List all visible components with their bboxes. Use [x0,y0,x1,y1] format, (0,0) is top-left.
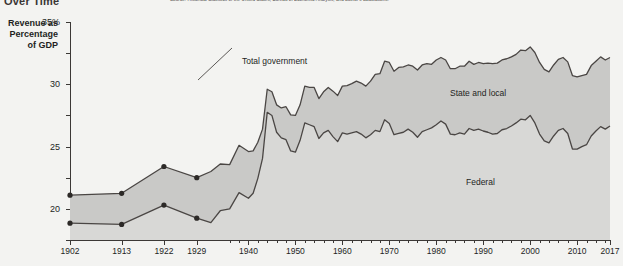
total-government-leader-line [198,48,232,80]
page-title: Over Time [4,0,59,7]
area-series [70,22,610,240]
x-tick-major [577,240,578,245]
x-tick-minor [464,240,465,243]
x-tick-minor [371,240,372,243]
y-tick-label: 35% [42,17,60,27]
x-tick-minor [568,240,569,243]
annotation-total-government: Total government [242,56,307,66]
x-tick-label: 1940 [239,246,258,256]
x-tick-minor [333,240,334,243]
x-tick-major [389,240,390,245]
x-tick-label: 2000 [521,246,540,256]
x-tick-minor [417,240,418,243]
data-point-marker [67,221,72,226]
x-tick-major [70,240,71,245]
data-point-marker [161,203,166,208]
x-tick-minor [596,240,597,243]
y-tick-label: 25 [50,142,60,152]
x-tick-minor [605,240,606,243]
x-tick-major [436,240,437,245]
data-point-marker [119,191,124,196]
x-tick-major [342,240,343,245]
x-tick-major [197,240,198,245]
x-tick-major [248,240,249,245]
data-point-marker [119,222,124,227]
x-tick-major [530,240,531,245]
x-tick-minor [502,240,503,243]
x-tick-minor [277,240,278,243]
y-axis-caption-line-3: of GDP [0,40,58,51]
chart-page: Over Time Source: Historical Statistics … [0,0,623,266]
annotation-state-and-local: State and local [450,88,506,98]
x-axis-line [70,240,610,241]
x-tick-minor [361,240,362,243]
x-tick-label: 1950 [286,246,305,256]
x-tick-minor [455,240,456,243]
x-tick-label: 1913 [112,246,131,256]
x-tick-minor [399,240,400,243]
x-tick-major [164,240,165,245]
x-tick-minor [446,240,447,243]
plot-area: 05101520253035% 190219131922192919401950… [70,22,610,240]
x-tick-label: 1980 [427,246,446,256]
x-tick-minor [549,240,550,243]
data-point-marker [194,216,199,221]
x-tick-minor [352,240,353,243]
x-tick-minor [493,240,494,243]
y-axis-caption-line-2: Percentage [0,29,58,40]
y-tick-label: 20 [50,204,60,214]
x-tick-major [122,240,123,245]
x-tick-minor [258,240,259,243]
x-tick-label: 1922 [154,246,173,256]
x-tick-minor [239,240,240,243]
data-point-marker [161,164,166,169]
x-tick-minor [511,240,512,243]
x-tick-major [483,240,484,245]
x-tick-major [610,240,611,245]
x-tick-minor [314,240,315,243]
x-tick-minor [540,240,541,243]
x-tick-label: 1960 [333,246,352,256]
x-tick-label: 1902 [61,246,80,256]
x-tick-minor [324,240,325,243]
x-tick-major [295,240,296,245]
y-tick-label: 30 [50,79,60,89]
x-tick-minor [286,240,287,243]
x-tick-label: 1990 [474,246,493,256]
data-point-marker [67,193,72,198]
x-tick-minor [267,240,268,243]
x-tick-label: 2017 [601,246,620,256]
x-tick-label: 2010 [568,246,587,256]
annotation-federal: Federal [466,177,495,187]
x-tick-label: 1929 [187,246,206,256]
x-tick-minor [521,240,522,243]
x-tick-minor [587,240,588,243]
x-tick-minor [427,240,428,243]
x-tick-label: 1970 [380,246,399,256]
x-tick-minor [230,240,231,243]
x-tick-minor [474,240,475,243]
x-tick-minor [558,240,559,243]
x-tick-minor [305,240,306,243]
data-point-marker [194,175,199,180]
source-note: Source: Historical Statistics of the Uni… [170,0,389,2]
x-tick-minor [380,240,381,243]
x-tick-minor [408,240,409,243]
